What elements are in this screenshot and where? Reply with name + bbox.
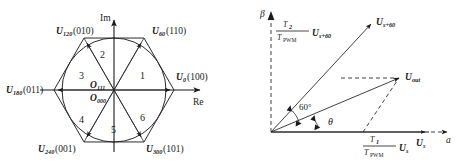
imaginary-axis-label: Im [100,13,111,23]
alpha-component-label: T 1 T PWM U s [363,135,409,158]
space-vector-hexagon-diagram: U 0 (100) U 60 (110) U 120 (010) U 180 (… [0,0,233,166]
svg-text:T: T [364,148,369,157]
svg-text:(101): (101) [163,144,184,155]
parallelogram-side-dashed [363,78,399,132]
sector-label-2: 2 [100,49,105,60]
alpha-axis-label: a [446,135,451,145]
sector-label-3: 3 [79,70,84,81]
sector-angle-label: 60° [299,102,312,112]
svg-text:111: 111 [97,85,105,91]
svg-text:T: T [283,20,288,29]
label-u60: U 60 (110) [152,26,186,37]
beta-axis-arrowhead [268,11,275,20]
label-u120: U 120 (010) [56,26,94,37]
svg-text:s: s [405,147,409,154]
svg-text:000: 000 [97,98,106,104]
sector-label-5: 5 [111,124,116,135]
svg-text:(100): (100) [187,72,208,83]
svg-text:60: 60 [159,30,165,37]
sector-label-4: 4 [79,114,84,125]
vector-synthesis-diagram: β a T 2 T PWM U s+60 T 1 T PWM U s U s+6… [233,0,466,166]
svg-text:O: O [90,93,97,103]
svg-text:300: 300 [152,148,162,155]
label-u300: U 300 (101) [146,144,184,155]
svg-text:PWM: PWM [283,37,296,43]
origin-label-o111: O 111 [90,80,105,91]
u-out-vector [271,78,399,132]
vector-u300 [114,90,141,137]
svg-text:2: 2 [288,23,292,30]
svg-text:s+60: s+60 [318,32,331,39]
svg-text:s: s [422,142,426,149]
svg-text:(110): (110) [166,26,186,37]
beta-axis-label: β [259,9,265,19]
theta-angle-arc-arrow-top [310,115,315,121]
svg-text:s+60: s+60 [382,21,395,28]
sector-label-6: 6 [140,112,145,123]
svg-text:O: O [90,80,97,90]
svg-text:0: 0 [183,76,186,83]
svg-text:T: T [277,33,282,42]
beta-component-label: T 2 T PWM U s+60 [276,20,331,43]
svg-text:(001): (001) [55,144,76,155]
u-out-label: U out [405,72,421,83]
svg-text:1: 1 [376,138,379,145]
label-u180: U 180 (011) [6,85,43,96]
svg-text:T: T [370,135,375,144]
svg-text:out: out [412,76,421,83]
u-s-label: U s [416,138,426,149]
label-u0: U 0 (100) [176,72,208,83]
vector-u60 [114,43,141,90]
label-u240: U 240 (001) [38,144,76,155]
sector-angle-arc-arrow-top [287,105,292,111]
figure-root: U 0 (100) U 60 (110) U 120 (010) U 180 (… [0,0,466,166]
svg-text:180: 180 [13,89,22,96]
svg-text:240: 240 [44,148,54,155]
svg-text:120: 120 [63,30,72,37]
svg-text:(011): (011) [23,85,43,96]
svg-text:(010): (010) [73,26,94,37]
theta-angle-label: θ [328,116,333,127]
u-s-plus-60-label: U s+60 [376,17,395,28]
svg-text:PWM: PWM [370,152,383,158]
real-axis-label: Re [193,97,204,107]
origin-label-o000: O 000 [90,93,106,104]
sector-label-1: 1 [140,70,145,81]
